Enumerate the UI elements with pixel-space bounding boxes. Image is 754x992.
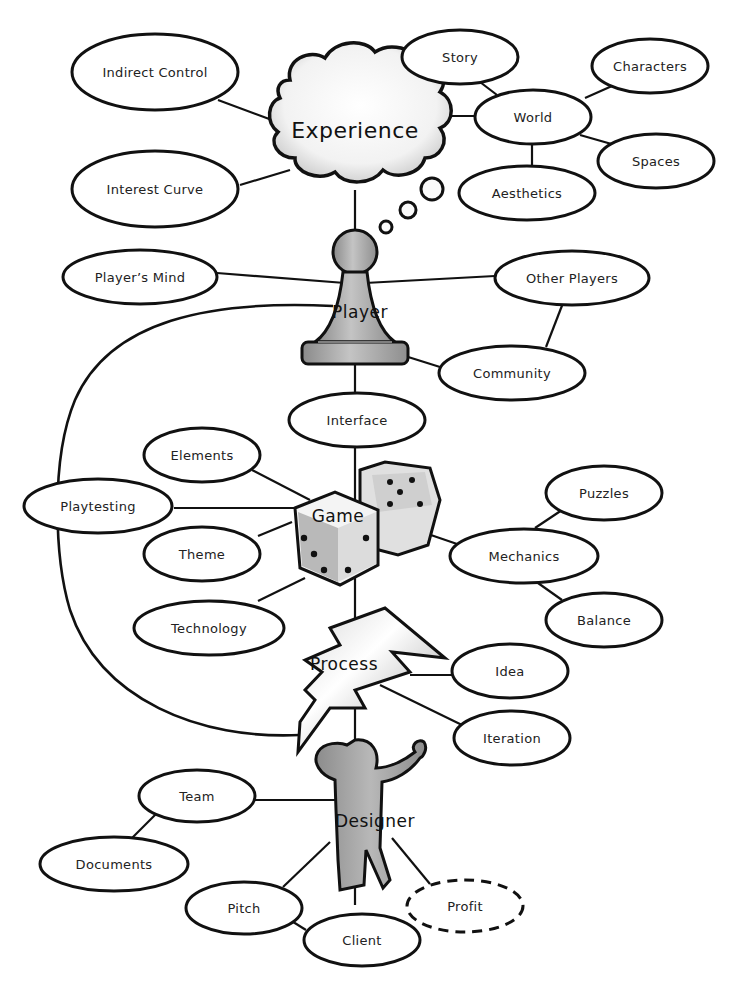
node-story[interactable]: Story: [402, 30, 518, 84]
node-spaces[interactable]: Spaces: [598, 134, 714, 188]
designer-label: Designer: [335, 811, 415, 831]
svg-text:Puzzles: Puzzles: [579, 486, 629, 501]
node-community[interactable]: Community: [439, 346, 585, 400]
node-puzzles[interactable]: Puzzles: [546, 466, 662, 520]
process-label: Process: [310, 654, 378, 674]
svg-text:Other Players: Other Players: [526, 271, 618, 286]
svg-text:Spaces: Spaces: [632, 154, 680, 169]
node-pitch[interactable]: Pitch: [186, 882, 302, 934]
node-interface[interactable]: Interface: [289, 393, 425, 447]
svg-text:Idea: Idea: [495, 664, 524, 679]
svg-text:Community: Community: [473, 366, 551, 381]
svg-text:Mechanics: Mechanics: [488, 549, 559, 564]
node-client[interactable]: Client: [304, 914, 420, 966]
node-iteration[interactable]: Iteration: [454, 711, 570, 765]
svg-text:Theme: Theme: [178, 547, 225, 562]
svg-text:Balance: Balance: [577, 613, 631, 628]
svg-text:Characters: Characters: [613, 59, 687, 74]
svg-text:Story: Story: [442, 50, 478, 65]
node-players-mind[interactable]: Player’s Mind: [63, 250, 217, 304]
node-characters[interactable]: Characters: [592, 39, 708, 93]
svg-text:Elements: Elements: [171, 448, 234, 463]
node-mechanics[interactable]: Mechanics: [450, 529, 598, 583]
experience-label: Experience: [291, 118, 419, 143]
node-playtesting[interactable]: Playtesting: [24, 479, 172, 533]
svg-text:Team: Team: [178, 789, 215, 804]
game-label: Game: [312, 506, 365, 526]
node-team[interactable]: Team: [139, 770, 255, 822]
svg-text:Pitch: Pitch: [227, 901, 260, 916]
svg-text:Indirect Control: Indirect Control: [102, 65, 207, 80]
svg-text:Profit: Profit: [447, 899, 483, 914]
node-balance[interactable]: Balance: [546, 593, 662, 647]
node-indirect-control[interactable]: Indirect Control: [72, 34, 238, 110]
svg-text:Documents: Documents: [76, 857, 153, 872]
svg-text:Aesthetics: Aesthetics: [492, 186, 562, 201]
node-idea[interactable]: Idea: [452, 644, 568, 698]
player-label: Player: [332, 302, 388, 322]
svg-text:Client: Client: [342, 933, 381, 948]
node-technology[interactable]: Technology: [134, 601, 284, 655]
svg-text:Player’s Mind: Player’s Mind: [95, 270, 186, 285]
player-pawn[interactable]: Player: [302, 230, 408, 364]
svg-text:Interest Curve: Interest Curve: [107, 182, 204, 197]
designer-figure[interactable]: Designer: [316, 740, 426, 890]
game-dice[interactable]: Game: [295, 462, 440, 585]
node-profit[interactable]: Profit: [407, 880, 523, 932]
svg-text:Technology: Technology: [170, 621, 247, 636]
game-design-diagram: Experience Player Game Process Designer: [0, 0, 754, 992]
node-elements[interactable]: Elements: [144, 428, 260, 482]
svg-text:World: World: [514, 110, 553, 125]
node-documents[interactable]: Documents: [40, 837, 188, 891]
svg-text:Playtesting: Playtesting: [60, 499, 135, 514]
node-theme[interactable]: Theme: [144, 527, 260, 581]
svg-text:Interface: Interface: [327, 413, 388, 428]
node-world[interactable]: World: [475, 90, 591, 144]
node-aesthetics[interactable]: Aesthetics: [459, 166, 595, 220]
svg-text:Iteration: Iteration: [483, 731, 541, 746]
node-interest-curve[interactable]: Interest Curve: [72, 151, 238, 227]
node-other-players[interactable]: Other Players: [495, 251, 649, 305]
process-bolt[interactable]: Process: [298, 608, 445, 752]
